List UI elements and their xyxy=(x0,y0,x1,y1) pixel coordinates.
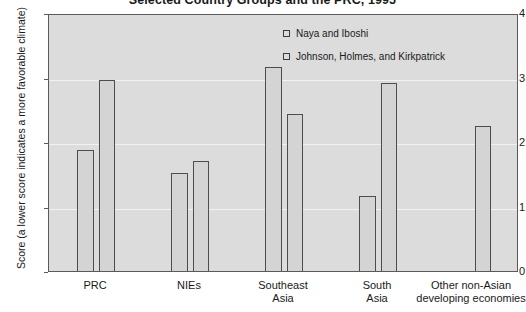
x-axis-tick-label-line: developing economies xyxy=(416,292,526,305)
x-axis-tick-label: Other non-Asiandeveloping economies xyxy=(416,279,526,304)
gridline xyxy=(49,144,517,145)
open-square-icon xyxy=(283,53,290,60)
y-axis-label: Score (a lower score indicates a more fa… xyxy=(15,0,27,280)
bar xyxy=(475,126,492,272)
bar xyxy=(99,80,116,273)
legend-item[interactable]: Johnson, Holmes, and Kirkpatrick xyxy=(283,51,445,62)
legend-item-label: Johnson, Holmes, and Kirkpatrick xyxy=(296,51,445,62)
chart-legend: Naya and Iboshi Johnson, Holmes, and Kir… xyxy=(283,28,445,74)
bar xyxy=(265,67,282,272)
bar xyxy=(171,173,188,272)
open-square-icon xyxy=(283,30,290,37)
gridline xyxy=(49,209,517,210)
x-axis-tick-label-line: Other non-Asian xyxy=(416,279,526,292)
chart-title: Selected Country Groups and the PRC, 199… xyxy=(0,0,525,9)
y-axis-tick-mark xyxy=(44,272,48,273)
legend-item[interactable]: Naya and Iboshi xyxy=(283,28,445,39)
gridline xyxy=(49,80,517,81)
bar xyxy=(381,83,398,272)
bar xyxy=(193,161,210,272)
bar xyxy=(359,196,376,272)
bar xyxy=(287,114,304,272)
bar xyxy=(77,150,94,272)
legend-item-label: Naya and Iboshi xyxy=(296,28,368,39)
